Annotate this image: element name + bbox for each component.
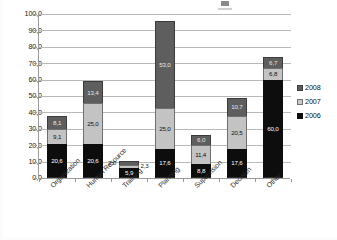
bar-segment-label: 17,6: [231, 160, 242, 166]
y-axis-tick-mark: [34, 178, 37, 179]
bar-segment-2007[interactable]: 20,5: [227, 116, 247, 150]
bar-segment-2007[interactable]: 9,1: [47, 129, 67, 144]
y-axis-tick-mark: [34, 80, 37, 81]
y-axis-tick-mark: [34, 30, 37, 31]
bar-segment-label: 53,0: [159, 62, 170, 68]
legend-label: 2006: [305, 112, 321, 119]
bar-segment-label: 25,0: [159, 126, 170, 132]
y-axis-tick-mark: [34, 47, 37, 48]
bar-segment-label: 20,5: [231, 130, 242, 136]
bar-segment-label: 60,0: [267, 126, 278, 132]
bar-group: 20,69,18,120,625,013,45,92,32,017,625,05…: [39, 14, 291, 178]
legend-swatch-2006: [297, 113, 303, 119]
legend-label: 2007: [305, 98, 321, 105]
y-axis-tick-mark: [34, 145, 37, 146]
y-axis-tick-mark: [34, 129, 37, 130]
y-axis-tick-mark: [34, 63, 37, 64]
legend-item-2008[interactable]: 2008: [297, 84, 321, 91]
bar-segment-label: 6,8: [269, 71, 277, 77]
bar-segment-label: 8,1: [53, 120, 61, 126]
bar-segment-2008[interactable]: [119, 161, 139, 164]
chart-legend: 200820072006: [297, 84, 321, 120]
bar-segment-label: 20,6: [51, 158, 62, 164]
legend-label: 2008: [305, 84, 321, 91]
bar-segment-label-outside: 2,3: [141, 163, 149, 169]
y-axis-tick-mark: [34, 96, 37, 97]
bar-segment-2007[interactable]: 25,0: [155, 108, 175, 149]
plot-area: 20,69,18,120,625,013,45,92,32,017,625,05…: [38, 14, 290, 179]
stacked-bar-chart: 100,090,080,070,060,050,040,030,020,010,…: [0, 0, 337, 240]
title-remnant-mark: [221, 1, 229, 6]
bar-segment-label: 9,1: [53, 134, 61, 140]
y-axis-tick-mark: [34, 112, 37, 113]
bar-segment-2008[interactable]: 6,7: [263, 57, 283, 68]
legend-swatch-2007: [297, 99, 303, 105]
x-axis-tick-mark: [291, 179, 292, 182]
bar-segment-2008[interactable]: 6,0: [191, 135, 211, 145]
bar-segment-label: 11,4: [196, 152, 207, 158]
legend-item-2007[interactable]: 2007: [297, 98, 321, 105]
x-axis-labels: OrganizationHuman ResourceTrainingPlanni…: [38, 182, 290, 240]
y-axis-tick-mark: [34, 162, 37, 163]
bar-column[interactable]: 17,620,510,7: [227, 98, 247, 178]
bar-segment-label: 6,7: [269, 60, 277, 66]
bar-segment-2008[interactable]: 53,0: [155, 21, 175, 108]
bar-segment-label: 10,7: [231, 104, 242, 110]
bar-segment-label: 6,0: [197, 137, 205, 143]
y-axis-tick-mark: [34, 14, 37, 15]
bar-segment-2007[interactable]: 11,4: [191, 145, 211, 164]
bar-segment-2006[interactable]: 60,0: [263, 80, 283, 178]
bar-segment-2007[interactable]: 25,0: [83, 103, 103, 144]
bar-segment-label: 25,0: [87, 121, 98, 127]
bar-segment-label: 17,6: [159, 160, 170, 166]
bar-column[interactable]: 20,625,013,4: [83, 81, 103, 178]
bar-segment-2007[interactable]: 6,8: [263, 68, 283, 79]
legend-item-2006[interactable]: 2006: [297, 112, 321, 119]
bar-column[interactable]: 60,06,86,7: [263, 57, 283, 178]
bar-segment-2008[interactable]: 8,1: [47, 116, 67, 129]
legend-swatch-2008: [297, 85, 303, 91]
title-remnant-underline: [218, 8, 232, 10]
bar-segment-2008[interactable]: 13,4: [83, 81, 103, 103]
bar-column[interactable]: 17,625,053,0: [155, 21, 175, 178]
scan-edge-left: [0, 0, 3, 240]
bar-segment-label: 20,6: [87, 158, 98, 164]
bar-segment-label: 13,4: [87, 90, 98, 96]
bar-segment-2008[interactable]: 10,7: [227, 98, 247, 116]
